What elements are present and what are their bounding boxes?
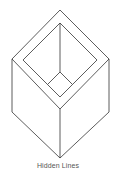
inner-floor <box>48 72 72 84</box>
isometric-box-diagram <box>0 0 116 179</box>
outer-top-face <box>12 10 109 109</box>
bottom-right-edge <box>60 112 109 158</box>
figure-caption: Hidden Lines <box>0 162 116 169</box>
bottom-left-edge <box>12 112 60 158</box>
